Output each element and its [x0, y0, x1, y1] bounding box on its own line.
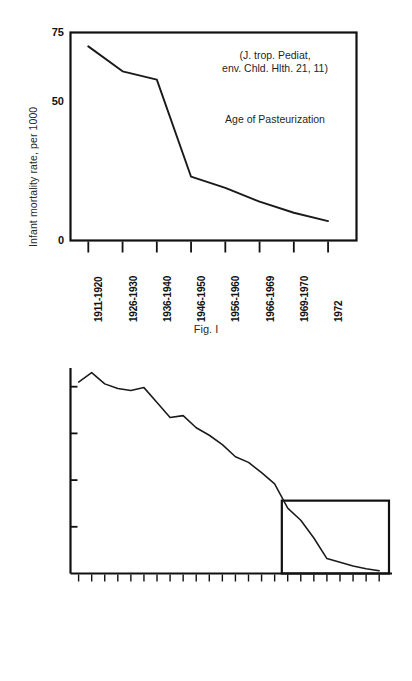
- fig1-x-tick-label-1: 1926-1930: [128, 276, 139, 322]
- fig1-y-axis-label: Infant mortality rate, per 1000: [27, 107, 39, 247]
- fig2-highlight-box: [282, 501, 389, 574]
- fig1-x-tick-label-6: 1969-1970: [299, 276, 310, 322]
- figure-two: Infant mortality rate, per 1000 05010015…: [0, 340, 412, 681]
- fig1-x-tick-label-4: 1956-1960: [230, 276, 241, 322]
- fig2-x-axis-ticks: [79, 575, 380, 582]
- fig1-y-tick-75: 75: [28, 26, 64, 38]
- fig1-x-tick-label-3: 1946-1950: [196, 276, 207, 322]
- figure-one: Infant mortality rate, per 1000 05075 19…: [0, 0, 412, 340]
- fig1-citation-annotation: (J. trop. Pediat, env. Chld. Hlth. 21, 1…: [200, 49, 350, 75]
- fig1-y-tick-0: 0: [28, 234, 64, 246]
- fig2-data-line: [79, 373, 380, 571]
- fig1-x-tick-label-7: 1972: [333, 301, 344, 322]
- fig1-x-tick-label-2: 1936-1940: [162, 276, 173, 322]
- fig1-y-tick-50: 50: [28, 95, 64, 107]
- fig1-caption: Fig. I: [0, 323, 412, 335]
- fig1-x-tick-label-5: 1966-1969: [265, 276, 276, 322]
- fig1-pasteurization-annotation: Age of Pasteurization: [200, 113, 350, 126]
- fig2-plot: [0, 340, 412, 681]
- fig1-x-tick-label-0: 1911-1920: [93, 277, 104, 322]
- fig1-x-axis-ticks: [88, 242, 328, 253]
